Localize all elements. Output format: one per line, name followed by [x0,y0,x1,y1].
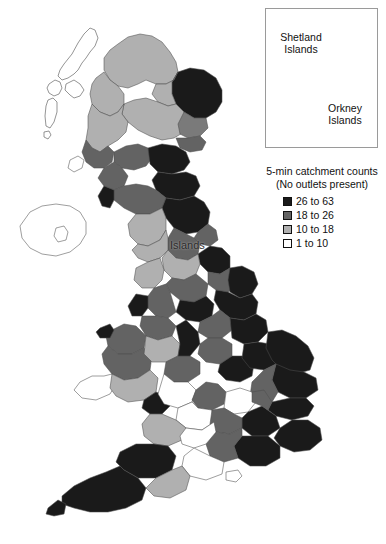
legend-item[interactable]: 26 to 63 [283,195,386,208]
shetland-islands-label: Shetland Islands [270,31,332,55]
legend-swatch-18-26 [283,211,292,220]
region-north-uist[interactable] [47,80,62,96]
map-legend: 5-min catchment counts (No outlets prese… [258,165,386,251]
region-staffordshire[interactable] [176,320,200,356]
legend-item[interactable]: 1 to 10 [283,237,386,250]
region-kent[interactable] [274,420,322,452]
legend-title-line1: 5-min catchment counts [258,165,386,178]
region-buckinghamshire[interactable] [224,388,256,414]
region-isle-of-wight[interactable] [226,470,242,482]
legend-item[interactable]: 10 to 18 [283,223,386,236]
legend-label-10-18: 10 to 18 [296,224,334,235]
region-lough-neagh[interactable] [54,226,68,242]
region-lewis-harris[interactable] [58,28,98,80]
legend-swatch-10-18 [283,225,292,234]
region-barra[interactable] [44,131,51,139]
orkney-islands-label: Orkney Islands [314,102,376,126]
legend-swatch-1-10 [283,239,292,248]
region-east-riding[interactable] [228,266,258,298]
legend-swatch-26-63 [283,197,292,206]
legend-entries: 26 to 63 18 to 26 10 to 18 1 to 10 [258,195,386,250]
legend-label-1-10: 1 to 10 [296,238,328,249]
region-highland-north[interactable] [104,34,178,88]
legend-label-18-26: 18 to 26 [296,210,334,221]
choropleth-figure: Shetland Islands Orkney Islands 5-min ca… [0,0,386,544]
region-west-yorkshire[interactable] [166,274,208,302]
region-pembrokeshire[interactable] [74,374,116,400]
region-islay-jura[interactable] [68,156,84,172]
region-south-uist[interactable] [45,98,57,128]
legend-label-26-63: 26 to 63 [296,196,334,207]
region-sussex[interactable] [234,436,280,466]
legend-title-line2: (No outlets present) [258,178,386,191]
region-group-northern-ireland [20,204,86,256]
region-west-penwith[interactable] [46,500,66,516]
region-merseyside[interactable] [128,294,148,316]
region-northern-ireland[interactable] [20,204,86,256]
northern-isles-inset-panel: Shetland Islands Orkney Islands [265,8,378,148]
region-anglesey[interactable] [96,324,114,338]
region-oxfordshire[interactable] [192,382,226,410]
region-lancashire-south[interactable] [134,258,164,288]
legend-item[interactable]: 18 to 26 [283,209,386,222]
stray-islands-label: Islands [170,239,205,251]
region-galloway-south[interactable] [98,186,114,208]
region-skye[interactable] [65,80,84,98]
